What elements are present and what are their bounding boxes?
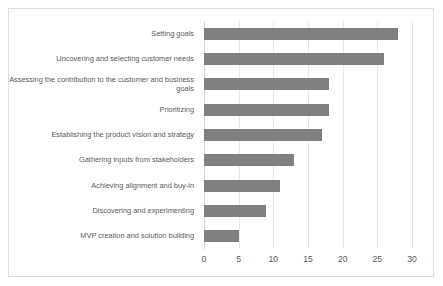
bar-row [204,46,412,71]
bar [204,78,329,90]
category-label: Achieving alignment and buy-in [9,181,194,191]
bar-row [204,21,412,46]
tick-label-20: 20 [338,254,348,264]
bar [204,154,294,166]
category-label: MVP creation and solution building [9,231,194,241]
value-axis-tick-labels: 051015202530 [204,254,412,270]
bar [204,230,239,242]
bar [204,53,384,65]
category-label: Discovering and experimenting [9,206,194,216]
bar-row [204,148,412,173]
bar [204,28,398,40]
bar-row [204,198,412,223]
category-label: Establishing the product vision and stra… [9,130,194,140]
category-axis-labels: Setting goalsUncovering and selecting cu… [9,21,199,249]
category-label: Gathering inputs from stakeholders [9,155,194,165]
bar-row [204,122,412,147]
bar-row [204,72,412,97]
category-label: Prioritizing [9,105,194,115]
gridline-30 [412,21,413,249]
bar-row [204,224,412,249]
bar-row [204,173,412,198]
category-label: Assessing the contribution to the custom… [9,75,194,94]
tick-label-0: 0 [202,254,207,264]
bar-row [204,97,412,122]
bar-series [204,21,412,249]
category-label: Uncovering and selecting customer needs [9,54,194,64]
bar [204,205,266,217]
plot-area [204,21,412,249]
tick-label-5: 5 [236,254,241,264]
tick-label-30: 30 [407,254,417,264]
bar [204,180,280,192]
category-label: Setting goals [9,29,194,39]
tick-label-15: 15 [303,254,313,264]
bar [204,129,322,141]
chart-frame: Setting goalsUncovering and selecting cu… [8,8,434,277]
bar [204,104,329,116]
tick-label-25: 25 [373,254,383,264]
tick-label-10: 10 [269,254,279,264]
